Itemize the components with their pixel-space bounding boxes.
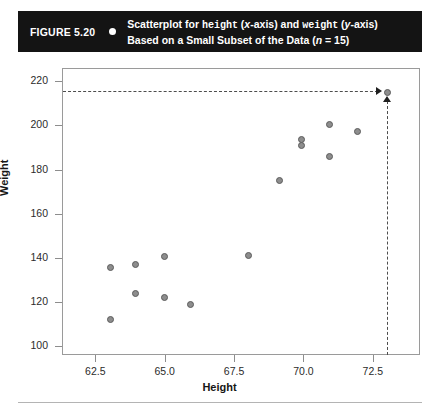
guide-line-vertical bbox=[387, 101, 388, 355]
figure-caption: Scatterplot for height (x-axis) and weig… bbox=[127, 17, 422, 47]
figure-container: FIGURE 5.20 Scatterplot for height (x-ax… bbox=[0, 0, 439, 410]
figure-caption-line-1: Scatterplot for height (x-axis) and weig… bbox=[127, 17, 422, 33]
y-axis-title: Weight bbox=[0, 160, 10, 196]
x-tick-mark bbox=[303, 355, 304, 362]
x-tick-label: 70.0 bbox=[283, 365, 323, 377]
y-tick-mark bbox=[55, 170, 62, 171]
data-point bbox=[132, 261, 139, 268]
caption-var-weight: weight bbox=[302, 20, 338, 31]
y-tick-mark bbox=[55, 346, 62, 347]
y-tick-mark bbox=[55, 302, 62, 303]
footer-divider bbox=[18, 402, 422, 403]
bullet-dot-icon bbox=[109, 28, 116, 35]
caption-text-a: Scatterplot for bbox=[127, 18, 202, 30]
figure-number: FIGURE 5.20 bbox=[30, 26, 95, 38]
plot-area bbox=[62, 68, 420, 355]
x-tick-label: 62.5 bbox=[75, 365, 115, 377]
figure-caption-line-2: Based on a Small Subset of the Data (n =… bbox=[127, 33, 422, 47]
x-tick-mark bbox=[165, 355, 166, 362]
data-point bbox=[276, 177, 283, 184]
arrow-up-icon bbox=[383, 96, 391, 102]
y-tick-mark bbox=[55, 125, 62, 126]
y-tick-label: 120 bbox=[14, 295, 48, 307]
y-tick-label: 100 bbox=[14, 339, 48, 351]
x-axis-title: Height bbox=[0, 381, 439, 393]
y-tick-label: 140 bbox=[14, 251, 48, 263]
caption2-text-b: = 15) bbox=[322, 34, 349, 46]
x-tick-mark bbox=[234, 355, 235, 362]
y-tick-label: 220 bbox=[14, 74, 48, 86]
data-point bbox=[326, 153, 333, 160]
data-point bbox=[384, 89, 391, 96]
caption-text-e: -axis) bbox=[350, 18, 377, 30]
data-point bbox=[161, 294, 168, 301]
guide-line-horizontal bbox=[63, 91, 378, 92]
data-point bbox=[354, 128, 361, 135]
y-tick-mark bbox=[55, 214, 62, 215]
caption-text-c: -axis) and bbox=[250, 18, 302, 30]
data-point bbox=[298, 136, 305, 143]
y-tick-mark bbox=[55, 258, 62, 259]
y-tick-label: 160 bbox=[14, 207, 48, 219]
data-point bbox=[326, 121, 333, 128]
data-point bbox=[245, 252, 252, 259]
x-tick-label: 65.0 bbox=[145, 365, 185, 377]
data-point bbox=[107, 316, 114, 323]
arrow-right-icon bbox=[376, 87, 382, 95]
x-tick-label: 72.5 bbox=[353, 365, 393, 377]
y-tick-label: 180 bbox=[14, 163, 48, 175]
data-point bbox=[107, 264, 114, 271]
x-tick-mark bbox=[95, 355, 96, 362]
y-tick-mark bbox=[55, 81, 62, 82]
caption2-text-a: Based on a Small Subset of the Data ( bbox=[127, 34, 315, 46]
y-tick-label: 200 bbox=[14, 118, 48, 130]
x-tick-mark bbox=[373, 355, 374, 362]
data-point bbox=[161, 253, 168, 260]
figure-header-bar: FIGURE 5.20 Scatterplot for height (x-ax… bbox=[18, 11, 422, 52]
data-point bbox=[187, 301, 194, 308]
data-point bbox=[132, 290, 139, 297]
x-tick-label: 67.5 bbox=[214, 365, 254, 377]
caption-var-height: height bbox=[202, 20, 238, 31]
